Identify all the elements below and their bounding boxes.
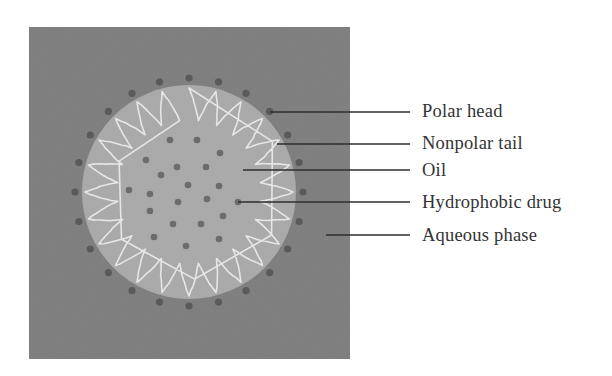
polar-head-dot <box>87 245 94 252</box>
polar-head-dot <box>242 287 249 294</box>
label-aqueous-phase: Aqueous phase <box>422 225 537 245</box>
hydrophobic-drug-dot <box>216 236 223 243</box>
hydrophobic-drug-dot <box>151 234 158 241</box>
polar-head-dot <box>215 78 222 85</box>
polar-head-dot <box>284 245 291 252</box>
polar-head-dot <box>71 188 78 195</box>
hydrophobic-drug-dot <box>198 221 205 228</box>
polar-head-dot <box>284 131 291 138</box>
hydrophobic-drug-dot <box>203 164 210 171</box>
hydrophobic-drug-dot <box>167 137 174 144</box>
polar-head-dot <box>75 218 82 225</box>
polar-head-dot <box>185 74 192 81</box>
polar-head-dot <box>156 78 163 85</box>
polar-head-dot <box>128 90 135 97</box>
hydrophobic-drug-dot <box>220 213 227 220</box>
label-polar-head: Polar head <box>422 101 503 121</box>
hydrophobic-drug-dot <box>143 157 150 164</box>
polar-head-dot <box>296 218 303 225</box>
hydrophobic-drug-dot <box>194 137 201 144</box>
polar-head-dot <box>242 90 249 97</box>
label-oil: Oil <box>422 160 446 180</box>
polar-head-dot <box>215 299 222 306</box>
hydrophobic-drug-dot <box>185 182 192 189</box>
hydrophobic-drug-dot <box>147 208 154 215</box>
polar-head-dot <box>75 159 82 166</box>
polar-head-dot <box>266 269 273 276</box>
polar-head-dot <box>156 299 163 306</box>
polar-head-dot <box>105 269 112 276</box>
label-hydrophobic-drug: Hydrophobic drug <box>422 192 561 212</box>
label-nonpolar-tail: Nonpolar tail <box>422 133 523 153</box>
hydrophobic-drug-dot <box>183 243 190 250</box>
polar-head-dot <box>128 287 135 294</box>
polar-head-dot <box>87 131 94 138</box>
hydrophobic-drug-dot <box>170 221 177 228</box>
hydrophobic-drug-dot <box>126 187 133 194</box>
polar-head-dot <box>105 108 112 115</box>
hydrophobic-drug-dot <box>174 164 181 171</box>
hydrophobic-drug-dot <box>175 199 182 206</box>
hydrophobic-drug-dot <box>147 191 154 198</box>
oil-droplet <box>82 85 296 299</box>
hydrophobic-drug-dot <box>204 196 211 203</box>
polar-head-dot <box>296 159 303 166</box>
hydrophobic-drug-dot <box>216 183 223 190</box>
hydrophobic-drug-dot <box>217 150 224 157</box>
hydrophobic-drug-dot <box>158 172 165 179</box>
polar-head-dot <box>185 302 192 309</box>
nanoemulsion-diagram <box>0 0 612 376</box>
polar-head-dot <box>299 188 306 195</box>
